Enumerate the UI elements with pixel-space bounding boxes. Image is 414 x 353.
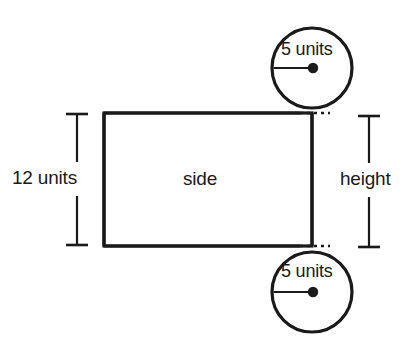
bottom-center-dot: [308, 287, 318, 297]
rectangle-label: side: [183, 169, 217, 188]
bottom-circle-radius-label: 5 units: [281, 262, 333, 280]
top-circle-radius-label: 5 units: [281, 40, 333, 58]
left-dimension-label: 12 units: [12, 168, 77, 187]
right-dimension-label: height: [340, 169, 391, 188]
geometry-figure: 12 units side height 5 units 5 units: [0, 0, 414, 353]
top-center-dot: [308, 63, 318, 73]
